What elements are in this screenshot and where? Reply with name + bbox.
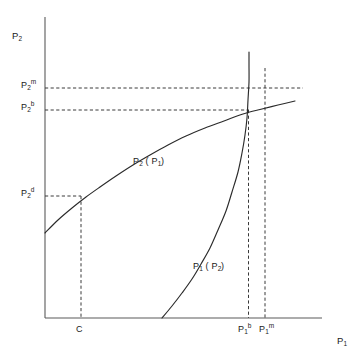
y-tick-label-P2b: P2b (21, 103, 34, 112)
curve-best-response-firm-2 (45, 101, 295, 233)
y-tick-label-P2m: P2m (21, 81, 36, 90)
y-tick-label-P2d: P2d (21, 189, 34, 198)
curve-label-best-response-firm-1: P1 ( P2) (193, 262, 224, 271)
x-tick-label-C: C (76, 325, 83, 334)
x-axis-title: P1 (337, 336, 347, 346)
plot-canvas (0, 0, 360, 356)
curve-label-best-response-firm-2: P2 ( P1) (133, 157, 164, 166)
reaction-function-diagram: P2 P1 P2m P2b P2d C P1b P1m P2 ( P1) P1 … (0, 0, 360, 356)
x-tick-label-P1b: P1b (238, 325, 251, 334)
x-tick-label-P1m: P1m (259, 325, 274, 334)
y-axis-title: P2 (12, 31, 22, 41)
curve-best-response-firm-1 (162, 52, 249, 318)
